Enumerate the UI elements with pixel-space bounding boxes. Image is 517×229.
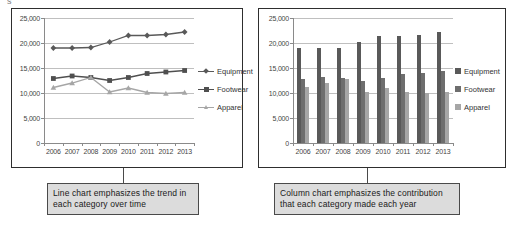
data-point-marker: [107, 39, 113, 45]
x-axis-tick-label: 2013: [436, 148, 451, 155]
line-chart-legend: EquipmentFootwearApparel: [198, 64, 253, 118]
y-axis-tick-label: 20,000: [269, 40, 289, 47]
bar-footwear-2006: [301, 79, 305, 143]
legend-line-swatch: [198, 86, 214, 93]
data-point-marker: [126, 85, 132, 90]
bar-equipment-2008: [337, 48, 341, 144]
bar-footwear-2011: [401, 74, 405, 143]
legend-square-swatch: [455, 86, 461, 92]
bar-equipment-2007: [317, 48, 321, 144]
data-point-marker: [69, 45, 75, 51]
x-tick-mark: [413, 143, 414, 146]
bar-apparel-2009: [365, 92, 369, 143]
data-point-marker: [70, 74, 75, 79]
data-point-marker: [145, 71, 150, 76]
y-axis-tick-label: 15,000: [269, 65, 289, 72]
x-tick-mark: [313, 143, 314, 146]
x-axis-tick-label: 2009: [356, 148, 371, 155]
line-series-apparel: [53, 78, 184, 94]
y-axis-tick-label: 0: [285, 140, 289, 147]
bar-apparel-2008: [345, 79, 349, 144]
y-axis-tick-label: 5,000: [272, 115, 289, 122]
bar-apparel-2010: [385, 88, 389, 144]
legend-label: Equipment: [464, 67, 500, 76]
x-axis-tick-label: 2007: [316, 148, 331, 155]
bar-apparel-2011: [405, 92, 409, 143]
bar-apparel-2006: [305, 87, 309, 143]
line-chart-panel: 05,00010,00015,00020,00025,0002006200720…: [11, 8, 243, 168]
legend-label: Footwear: [217, 85, 248, 94]
bar-footwear-2012: [421, 73, 425, 144]
data-point-marker: [144, 33, 150, 39]
bar-apparel-2012: [425, 93, 429, 143]
legend-item-apparel: Apparel: [198, 100, 253, 114]
x-tick-mark: [353, 143, 354, 146]
x-tick-mark: [373, 143, 374, 146]
legend-square-swatch: [455, 104, 461, 110]
bar-footwear-2010: [381, 78, 385, 143]
data-point-marker: [107, 78, 112, 83]
bar-equipment-2009: [357, 42, 361, 143]
column-chart-legend: EquipmentFootwearApparel: [455, 64, 500, 118]
x-axis-tick-label: 2010: [376, 148, 391, 155]
data-point-marker: [163, 70, 168, 75]
bar-equipment-2013: [437, 32, 441, 143]
y-axis-tick-label: 10,000: [269, 90, 289, 97]
bar-equipment-2012: [417, 35, 421, 144]
x-axis-tick-label: 2008: [336, 148, 351, 155]
gridline: [293, 18, 453, 19]
data-point-marker: [51, 76, 56, 81]
data-point-marker: [125, 33, 131, 39]
legend-line-swatch: [198, 104, 214, 111]
bar-equipment-2010: [377, 36, 381, 144]
line-caption-connector: [123, 168, 124, 183]
data-point-marker: [126, 75, 131, 80]
x-axis-tick-label: 2011: [396, 148, 410, 155]
x-axis-tick-label: 2012: [416, 148, 431, 155]
line-chart-caption: Line chart emphasizes the trend in each …: [47, 183, 199, 215]
bar-apparel-2013: [445, 92, 449, 143]
bar-footwear-2007: [321, 77, 325, 143]
legend-item-equipment: Equipment: [455, 64, 500, 78]
cut-off-text: s: [7, 0, 12, 4]
bar-equipment-2006: [297, 48, 301, 143]
gridline: [293, 43, 453, 44]
bar-footwear-2009: [361, 81, 365, 144]
legend-line-swatch: [198, 68, 214, 75]
x-axis-tick-label: 2006: [296, 148, 311, 155]
data-point-marker: [182, 68, 187, 73]
bar-footwear-2008: [341, 78, 345, 143]
column-chart-panel: 05,00010,00015,00020,00025,0002006200720…: [258, 8, 506, 168]
column-caption-connector: [367, 168, 368, 183]
legend-label: Apparel: [464, 103, 490, 112]
legend-item-apparel: Apparel: [455, 100, 500, 114]
bar-footwear-2013: [441, 71, 445, 143]
legend-item-footwear: Footwear: [198, 82, 253, 96]
legend-square-swatch: [455, 68, 461, 74]
legend-label: Footwear: [464, 85, 495, 94]
x-tick-mark: [453, 143, 454, 146]
bar-apparel-2007: [325, 83, 329, 143]
data-point-marker: [50, 45, 56, 51]
data-point-marker: [182, 29, 188, 35]
x-tick-mark: [433, 143, 434, 146]
bar-equipment-2011: [397, 36, 401, 144]
column-chart-caption: Column chart emphasizes the contribution…: [274, 183, 460, 215]
y-axis-line: [293, 18, 294, 143]
x-tick-mark: [293, 143, 294, 146]
legend-label: Equipment: [217, 67, 253, 76]
legend-item-equipment: Equipment: [198, 64, 253, 78]
y-axis-tick-label: 25,000: [269, 15, 289, 22]
slide-canvas: s 05,00010,00015,00020,00025,00020062007…: [0, 0, 517, 229]
data-point-marker: [163, 32, 169, 38]
legend-label: Apparel: [217, 103, 243, 112]
legend-item-footwear: Footwear: [455, 82, 500, 96]
data-point-marker: [88, 45, 94, 51]
x-tick-mark: [393, 143, 394, 146]
x-tick-mark: [333, 143, 334, 146]
